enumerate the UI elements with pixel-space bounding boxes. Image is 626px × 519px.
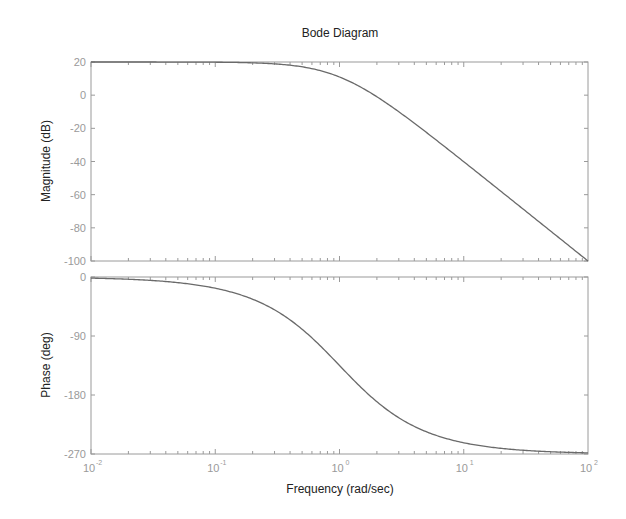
phase-ytick-labels: 0-90-180-270 [64,271,86,460]
magnitude-ylabel: Magnitude (dB) [39,120,53,202]
y-tick-label: 0 [80,271,86,283]
x-tick-exponent: -2 [96,459,102,466]
y-tick-label: -180 [64,389,86,401]
chart-title: Bode Diagram [302,26,379,40]
y-tick-label: -270 [64,448,86,460]
magnitude-axes-frame [91,62,588,261]
x-tick-exponent: -1 [220,459,226,466]
magnitude-panel: 200-20-40-60-80-100 Magnitude (dB) [39,56,588,267]
y-tick-label: -100 [64,255,86,267]
phase-panel: 0-90-180-270 Phase (deg) [39,271,588,460]
y-tick-label: -20 [70,122,86,134]
magnitude-ticks [91,62,588,261]
y-tick-label: 0 [80,89,86,101]
x-tick-exponent: 2 [594,459,598,466]
magnitude-ytick-labels: 200-20-40-60-80-100 [64,56,86,267]
x-tick-label: 10 [456,462,468,474]
y-tick-label: -40 [70,156,86,168]
magnitude-curve [91,62,588,261]
y-tick-label: -90 [70,330,86,342]
x-tick-label: 10 [207,462,219,474]
phase-ylabel: Phase (deg) [39,332,53,397]
x-tick-label: 10 [580,462,592,474]
x-tick-label: 10 [83,462,95,474]
x-axis-label: Frequency (rad/sec) [286,482,393,496]
x-tick-label: 10 [331,462,343,474]
y-tick-label: -60 [70,189,86,201]
phase-curve [91,278,588,453]
bode-diagram: Bode Diagram 200-20-40-60-80-100 Magnitu… [0,0,626,519]
x-tick-labels: 10-210-1100101102 [83,459,598,474]
y-tick-label: 20 [74,56,86,68]
y-tick-label: -80 [70,222,86,234]
x-tick-exponent: 1 [470,459,474,466]
x-tick-exponent: 0 [346,459,350,466]
